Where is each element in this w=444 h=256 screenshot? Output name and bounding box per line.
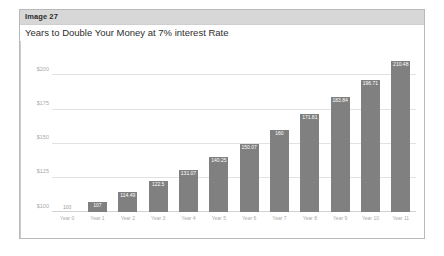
bar[interactable]: 114.49 — [118, 192, 137, 212]
bar-value-label: 196.71 — [362, 81, 379, 86]
bar-value-label: 210.48 — [392, 62, 409, 67]
x-axis-tick-label: Year 6 — [242, 216, 256, 221]
plot-inner: $100$125$150$175$200 100Year 0107Year 11… — [52, 55, 416, 212]
image-label: Image 27 — [25, 13, 58, 21]
page-title: Years to Double Your Money at 7% interes… — [25, 27, 424, 39]
x-axis-tick-label: Year 7 — [272, 216, 286, 221]
x-axis-tick-label: Year 3 — [151, 216, 165, 221]
bar-value-label: 140.25 — [210, 158, 227, 163]
bar[interactable]: 160 — [270, 130, 289, 212]
bar[interactable]: 196.71 — [361, 80, 380, 212]
x-axis-tick-label: Year 1 — [90, 216, 104, 221]
bar-slot[interactable]: 107Year 1 — [82, 55, 112, 212]
x-axis-tick-label: Year 8 — [303, 216, 317, 221]
x-axis-tick-label: Year 9 — [333, 216, 347, 221]
bar-slot[interactable]: 122.5Year 3 — [143, 55, 173, 212]
bar-slot[interactable]: 210.48Year 11 — [386, 55, 416, 212]
bar-value-label: 107 — [92, 203, 102, 208]
bar[interactable]: 210.48 — [391, 61, 410, 212]
y-axis-tick-label: $150 — [37, 135, 49, 141]
bar-value-label: 183.84 — [331, 98, 348, 103]
bar-slot[interactable]: 140.25Year 5 — [204, 55, 234, 212]
bar[interactable]: 107 — [88, 202, 107, 212]
bar[interactable]: 150.07 — [240, 144, 259, 212]
bar[interactable]: 171.81 — [300, 114, 319, 212]
x-axis-tick-label: Year 5 — [212, 216, 226, 221]
bar-slot[interactable]: 183.84Year 9 — [325, 55, 355, 212]
bar-value-label: 171.81 — [301, 115, 318, 120]
x-axis-tick-label: Year 4 — [181, 216, 195, 221]
bar-value-label: 150.07 — [240, 145, 257, 150]
x-axis-tick-label: Year 10 — [362, 216, 379, 221]
bar[interactable]: 140.25 — [209, 157, 228, 212]
bar-slot[interactable]: 100Year 0 — [52, 55, 82, 212]
bar-series: 100Year 0107Year 1114.49Year 2122.5Year … — [52, 55, 416, 212]
bar-slot[interactable]: 114.49Year 2 — [113, 55, 143, 212]
bar-slot[interactable]: 160Year 7 — [264, 55, 294, 212]
y-axis-tick-label: $175 — [37, 101, 49, 107]
bar-slot[interactable]: 171.81Year 8 — [295, 55, 325, 212]
x-axis-tick-label: Year 11 — [392, 216, 409, 221]
bar-slot[interactable]: 196.71Year 10 — [355, 55, 385, 212]
y-axis-tick-label: $200 — [37, 67, 49, 73]
card-header: Image 27 — [20, 10, 424, 25]
y-axis-line — [20, 41, 21, 238]
bar[interactable]: 122.5 — [149, 181, 168, 212]
chart-title-row: Years to Double Your Money at 7% interes… — [20, 25, 424, 41]
bar[interactable]: 183.84 — [331, 97, 350, 212]
bar-value-label: 114.49 — [119, 193, 136, 198]
x-axis-tick-label: Year 0 — [60, 216, 74, 221]
chart-card: Image 27 Years to Double Your Money at 7… — [19, 9, 425, 239]
x-axis-tick-label: Year 2 — [121, 216, 135, 221]
bar-slot[interactable]: 150.07Year 6 — [234, 55, 264, 212]
bar-value-label: 131.07 — [180, 171, 197, 176]
bar-value-label: 100 — [62, 205, 72, 210]
bar-slot[interactable]: 131.07Year 4 — [173, 55, 203, 212]
bar-value-label: 122.5 — [151, 182, 166, 187]
y-axis-tick-label: $100 — [37, 204, 49, 210]
chart-plot-region: $100$125$150$175$200 100Year 0107Year 11… — [20, 41, 424, 238]
bar[interactable]: 131.07 — [179, 170, 198, 212]
bar-value-label: 160 — [274, 131, 284, 136]
y-axis-tick-label: $125 — [37, 170, 49, 176]
